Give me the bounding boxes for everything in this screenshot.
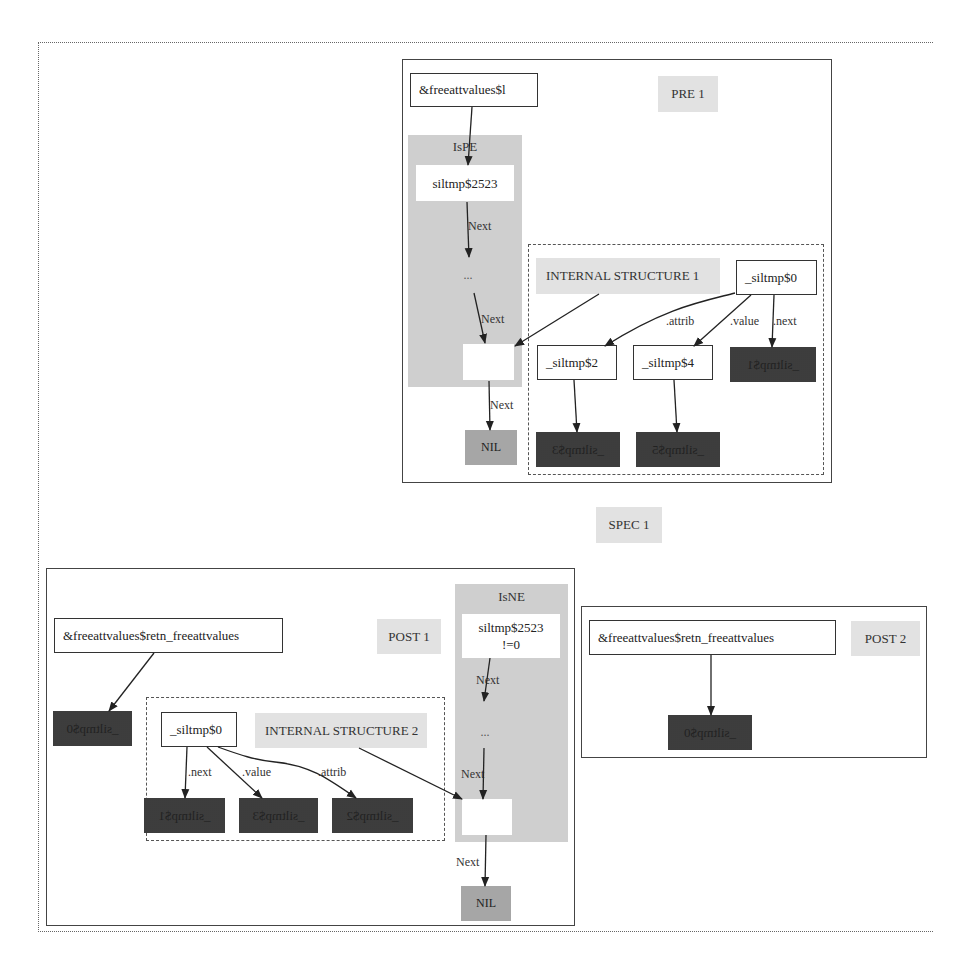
is2-edge-next: .next (188, 765, 212, 780)
internal-structure-2-label: INTERNAL STRUCTURE 2 (255, 713, 427, 748)
ispe-head-node-label: siltmp$2523 (432, 175, 497, 192)
isne-head-line2: !=0 (502, 636, 520, 653)
is2-child-1[interactable]: _siltmp$1 (144, 798, 225, 833)
isne-ellipsis: ... (460, 725, 510, 740)
is2-child-2-label: _siltmp$3 (253, 808, 305, 824)
pre1-root-node[interactable]: &freeattvalues$l (410, 73, 538, 107)
isne-nil-label: NIL (476, 896, 496, 911)
internal-structure-1-label-text: INTERNAL STRUCTURE 1 (546, 268, 699, 284)
spec-label: SPEC 1 (596, 507, 662, 543)
is1-edge-next: .next (773, 314, 797, 329)
post2-label: POST 2 (851, 621, 920, 656)
is1-grandchild-2[interactable]: _siltmp$5 (636, 432, 720, 467)
is2-child-2[interactable]: _siltmp$3 (239, 798, 318, 833)
is2-child-3-label: _siltmp$2 (347, 808, 399, 824)
ispe-cluster-title: IsPE (408, 139, 522, 155)
internal-structure-1-label: INTERNAL STRUCTURE 1 (536, 258, 720, 294)
pre1-root-node-label: &freeattvalues$l (419, 82, 506, 98)
is1-child-1-label: _siltmp$2 (546, 355, 598, 371)
is1-grandchild-2-label: _siltmp$5 (652, 442, 704, 458)
post2-target-label: _siltmp$0 (684, 725, 736, 741)
isne-head-line1: siltmp$2523 (478, 619, 543, 636)
ispe-tail-node[interactable] (463, 344, 514, 380)
is1-edge-attrib: .attrib (666, 314, 694, 329)
is1-edge-value: .value (730, 314, 759, 329)
isne-head-node[interactable]: siltmp$2523 !=0 (462, 614, 560, 658)
is1-grandchild-1-label: _siltmp$3 (552, 442, 604, 458)
post1-target-node[interactable]: _siltmp$0 (53, 711, 132, 746)
is2-child-3[interactable]: _siltmp$2 (332, 798, 413, 833)
is1-grandchild-1[interactable]: _siltmp$3 (536, 432, 620, 467)
is1-child-1[interactable]: _siltmp$2 (537, 345, 617, 380)
isne-nil-node[interactable]: NIL (461, 886, 511, 921)
post2-root-node-label: &freeattvalues$retn_freeattvalues (598, 630, 774, 646)
post1-target-label: _siltmp$0 (67, 721, 119, 737)
is1-root-label: _siltmp$0 (745, 270, 797, 286)
isne-tail-node[interactable] (462, 799, 512, 835)
post2-root-node[interactable]: &freeattvalues$retn_freeattvalues (589, 620, 836, 655)
spec-label-text: SPEC 1 (609, 517, 650, 533)
is1-child-3-label: _siltmp$1 (747, 357, 799, 373)
ispe-edge-label-3: Next (490, 398, 513, 413)
internal-structure-2-label-text: INTERNAL STRUCTURE 2 (265, 723, 418, 739)
isne-edge-label-1: Next (476, 673, 499, 688)
ispe-ellipsis: ... (458, 268, 478, 283)
is2-root-node[interactable]: _siltmp$0 (161, 712, 237, 747)
pre1-label-text: PRE 1 (671, 86, 705, 102)
post1-root-node[interactable]: &freeattvalues$retn_freeattvalues (54, 618, 283, 653)
post1-root-node-label: &freeattvalues$retn_freeattvalues (63, 628, 239, 644)
post2-label-text: POST 2 (865, 631, 906, 647)
is2-edge-value: .value (242, 765, 271, 780)
is2-root-label: _siltmp$0 (170, 722, 222, 738)
is2-edge-attrib: .attrib (318, 765, 346, 780)
ispe-nil-label: NIL (481, 440, 501, 455)
ispe-head-node[interactable]: siltmp$2523 (416, 165, 514, 201)
is1-child-3[interactable]: _siltmp$1 (730, 347, 816, 382)
post1-label: POST 1 (377, 619, 441, 654)
is1-child-2-label: _siltmp$4 (642, 355, 694, 371)
isne-edge-label-3: Next (456, 855, 479, 870)
ispe-edge-label-1: Next (468, 219, 491, 234)
isne-cluster-title: IsNE (455, 589, 568, 605)
pre1-label: PRE 1 (658, 76, 718, 112)
isne-edge-label-2: Next (461, 767, 484, 782)
is1-root-node[interactable]: _siltmp$0 (736, 260, 817, 295)
post2-target-node[interactable]: _siltmp$0 (668, 715, 752, 750)
ispe-edge-label-2: Next (481, 312, 504, 327)
post1-label-text: POST 1 (388, 629, 429, 645)
is1-child-2[interactable]: _siltmp$4 (633, 345, 713, 380)
ispe-nil-node[interactable]: NIL (465, 430, 517, 465)
is2-child-1-label: _siltmp$1 (159, 808, 211, 824)
